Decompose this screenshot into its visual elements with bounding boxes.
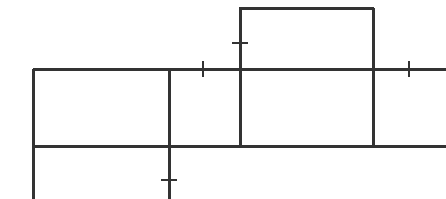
technical-drawing-canvas: [0, 0, 446, 199]
line-drawing-svg: [0, 0, 446, 199]
